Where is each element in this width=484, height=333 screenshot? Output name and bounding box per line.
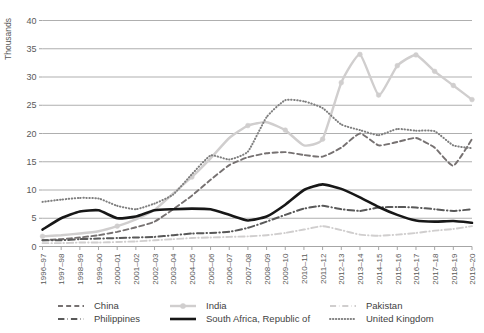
x-tick-label: 1996–97	[39, 253, 48, 285]
series-marker	[414, 53, 419, 58]
legend-item-philippines[interactable]: Philippines	[58, 313, 140, 324]
legend-item-pakistan[interactable]: Pakistan	[330, 300, 402, 311]
x-tick-label: 2013–14	[356, 253, 365, 285]
x-tick-label: 2003–04	[169, 253, 178, 285]
x-axis-tick-labels: 1996–971997–981998–991999–002000–012001–…	[39, 247, 478, 285]
legend-item-india[interactable]: India	[170, 300, 227, 311]
x-tick-label: 2010–11	[300, 253, 309, 284]
y-tick-label: 25	[26, 100, 36, 110]
series-marker	[283, 128, 288, 133]
y-axis-title: Thousands	[3, 18, 13, 60]
x-tick-label: 2018–19	[450, 253, 459, 285]
series-marker	[395, 63, 400, 68]
x-tick-label: 2012–13	[337, 253, 346, 285]
x-tick-label: 2009–10	[281, 253, 290, 285]
series-layer	[40, 52, 474, 243]
series-marker	[470, 97, 475, 102]
legend-label-india: India	[206, 300, 227, 311]
x-tick-label: 2011–12	[319, 253, 328, 284]
line-chart: 0510152025303540 1996–971997–981998–9919…	[0, 0, 484, 333]
series-marker	[358, 52, 363, 57]
legend-label-pakistan: Pakistan	[366, 300, 402, 311]
x-tick-label: 2019–20	[468, 253, 477, 285]
y-tick-label: 30	[26, 72, 36, 82]
legend-label-china: China	[94, 300, 120, 311]
series-marker	[376, 93, 381, 98]
legend-label-philippines: Philippines	[94, 313, 140, 324]
y-tick-label: 15	[26, 157, 36, 167]
x-tick-label: 1998–99	[76, 253, 85, 285]
series-marker	[339, 80, 344, 85]
y-tick-label: 5	[31, 213, 36, 223]
x-tick-label: 2007–08	[244, 253, 253, 285]
legend-label-united-kingdom: United Kingdom	[366, 313, 434, 324]
legend-label-south-africa-republic-of: South Africa, Republic of	[206, 313, 310, 324]
x-tick-label: 2005–06	[207, 253, 216, 285]
legend-item-south-africa-republic-of[interactable]: South Africa, Republic of	[170, 313, 310, 324]
y-tick-label: 10	[26, 185, 36, 195]
x-tick-label: 2004–05	[188, 253, 197, 285]
series-marker	[115, 224, 120, 229]
y-tick-label: 20	[26, 129, 36, 139]
x-tick-label: 2017–18	[431, 253, 440, 285]
x-tick-label: 1999–00	[95, 253, 104, 285]
y-tick-label: 0	[31, 242, 36, 252]
x-tick-label: 2016–17	[412, 253, 421, 285]
x-tick-label: 2014–15	[375, 253, 384, 285]
legend-item-united-kingdom[interactable]: United Kingdom	[330, 313, 434, 324]
x-tick-label: 2000–01	[113, 253, 122, 285]
chart-legend: ChinaIndiaPakistanPhilippinesSouth Afric…	[58, 300, 434, 324]
x-tick-label: 2006–07	[225, 253, 234, 285]
series-marker	[40, 234, 45, 239]
x-tick-label: 2015–16	[394, 253, 403, 285]
series-marker	[320, 137, 325, 142]
x-tick-label: 1997–98	[57, 253, 66, 285]
y-tick-label: 35	[26, 44, 36, 54]
x-tick-label: 2001–02	[132, 253, 141, 285]
series-line	[43, 54, 473, 236]
series-marker	[451, 83, 456, 88]
y-tick-label: 40	[26, 16, 36, 26]
x-tick-label: 2008–09	[263, 253, 272, 285]
x-tick-label: 2002–03	[151, 253, 160, 285]
chart-container: 0510152025303540 1996–971997–981998–9919…	[0, 0, 484, 333]
y-axis-title-group: Thousands	[3, 18, 13, 60]
legend-marker-india	[180, 303, 185, 308]
y-axis-tick-labels: 0510152025303540	[26, 16, 36, 252]
series-marker	[246, 123, 251, 128]
legend-item-china[interactable]: China	[58, 300, 120, 311]
series-india	[40, 52, 474, 239]
series-marker	[432, 69, 437, 74]
